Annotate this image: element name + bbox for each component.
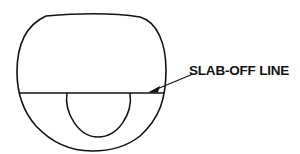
leader-line bbox=[157, 74, 193, 89]
bifocal-segment bbox=[67, 93, 131, 137]
lens-outline bbox=[17, 14, 166, 151]
arrowhead-icon bbox=[148, 86, 160, 93]
slab-off-line-label: SLAB-OFF LINE bbox=[189, 63, 289, 78]
